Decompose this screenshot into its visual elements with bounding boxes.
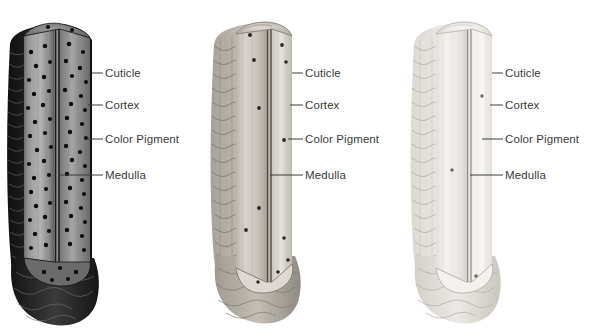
cortex-right-face-medium: [272, 29, 292, 282]
hair-structure-figure: Cuticle Cortex Color Pigment Medulla: [0, 0, 589, 336]
cortex-left-face-light: [436, 30, 466, 282]
cortex-left-face-medium: [236, 30, 266, 282]
label-cortex: Cortex: [105, 99, 140, 111]
label-cortex: Cortex: [505, 99, 540, 111]
medulla-medium: [266, 29, 272, 282]
dark-hair-shaft-panel: Cuticle Cortex Color Pigment Medulla: [0, 0, 197, 336]
medium-hair-shaft-panel: Cuticle Cortex Color Pigment Medulla: [196, 0, 393, 336]
medulla-dark: [54, 29, 60, 262]
label-color-pigment: Color Pigment: [105, 133, 180, 145]
label-cuticle: Cuticle: [505, 67, 541, 79]
label-medulla: Medulla: [505, 169, 546, 181]
label-medulla: Medulla: [105, 169, 146, 181]
label-medulla: Medulla: [305, 169, 346, 181]
label-color-pigment: Color Pigment: [505, 133, 580, 145]
label-cortex: Cortex: [305, 99, 340, 111]
light-hair-shaft-panel: Cuticle Cortex Color Pigment Medulla: [392, 0, 589, 336]
label-color-pigment: Color Pigment: [305, 133, 380, 145]
label-cuticle: Cuticle: [305, 67, 341, 79]
cortex-right-face-light: [472, 29, 492, 282]
label-cuticle: Cuticle: [105, 67, 141, 79]
medulla-light: [466, 29, 472, 282]
